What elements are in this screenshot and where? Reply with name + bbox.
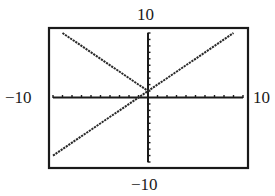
graph-window <box>0 0 275 196</box>
series-line-1 <box>53 33 234 156</box>
axes <box>53 33 243 162</box>
series-line-2 <box>63 33 149 91</box>
plotted-lines <box>53 33 234 156</box>
